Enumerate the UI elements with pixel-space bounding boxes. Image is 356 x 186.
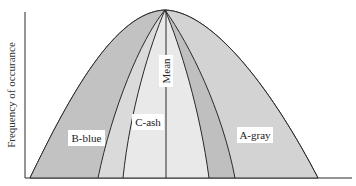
b-blue-label: B-blue bbox=[72, 132, 102, 144]
y-axis-label: Frequency of occurance bbox=[5, 42, 17, 148]
diagram-canvas: Frequency of occurance Mean B-blue C-ash… bbox=[0, 0, 356, 186]
frequency-distribution-diagram: Frequency of occurance Mean B-blue C-ash… bbox=[0, 0, 356, 186]
mean-label: Mean bbox=[160, 58, 172, 84]
c-ash-label: C-ash bbox=[135, 116, 161, 128]
a-gray-label: A-gray bbox=[239, 129, 271, 141]
